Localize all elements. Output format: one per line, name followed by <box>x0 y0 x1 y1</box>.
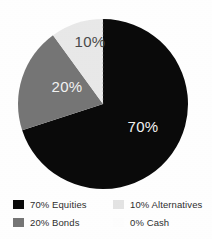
pie-chart-svg: 70% 20% 10% <box>0 0 212 196</box>
legend-label-bonds: 20% Bonds <box>30 217 80 228</box>
legend-column-right: 10% Alternatives 0% Cash <box>113 196 212 232</box>
legend-item-alternatives[interactable]: 10% Alternatives <box>113 196 212 212</box>
slice-label-equities: 70% <box>128 118 159 135</box>
chart-legend: 70% Equities 20% Bonds 10% Alternatives … <box>0 196 212 239</box>
slice-label-bonds: 20% <box>52 78 83 95</box>
legend-item-cash[interactable]: 0% Cash <box>113 214 212 230</box>
legend-item-bonds[interactable]: 20% Bonds <box>13 214 113 230</box>
legend-item-equities[interactable]: 70% Equities <box>13 196 113 212</box>
legend-swatch-equities <box>13 200 24 209</box>
pie-chart-figure: 70% 20% 10% 70% Equities 20% Bonds 10% A… <box>0 0 212 239</box>
legend-label-cash: 0% Cash <box>130 217 169 228</box>
legend-label-alternatives: 10% Alternatives <box>130 199 202 210</box>
slice-label-alternatives: 10% <box>75 33 106 50</box>
legend-swatch-alternatives <box>113 200 124 209</box>
legend-label-equities: 70% Equities <box>30 199 87 210</box>
legend-column-left: 70% Equities 20% Bonds <box>13 196 113 232</box>
legend-swatch-cash <box>113 218 124 227</box>
legend-swatch-bonds <box>13 218 24 227</box>
pie-chart-area: 70% 20% 10% <box>0 0 212 196</box>
